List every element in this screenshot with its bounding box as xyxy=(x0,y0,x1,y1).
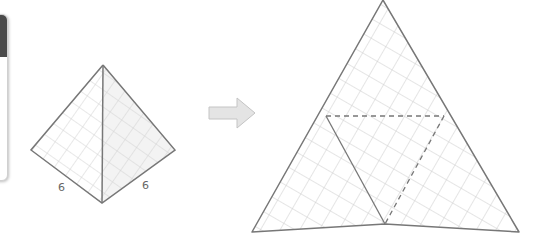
diagram-canvas: 6 6 xyxy=(0,0,545,243)
edge-label-left: 6 xyxy=(58,181,65,194)
arrow-right-icon xyxy=(209,98,255,128)
edge-label-right: 6 xyxy=(142,179,149,192)
tetrahedron-front-edge xyxy=(102,65,103,203)
tetrahedron-net xyxy=(252,0,519,232)
net-shape xyxy=(252,0,519,232)
tetrahedron-left-face xyxy=(31,65,103,203)
tetrahedron: 6 6 xyxy=(31,65,175,203)
